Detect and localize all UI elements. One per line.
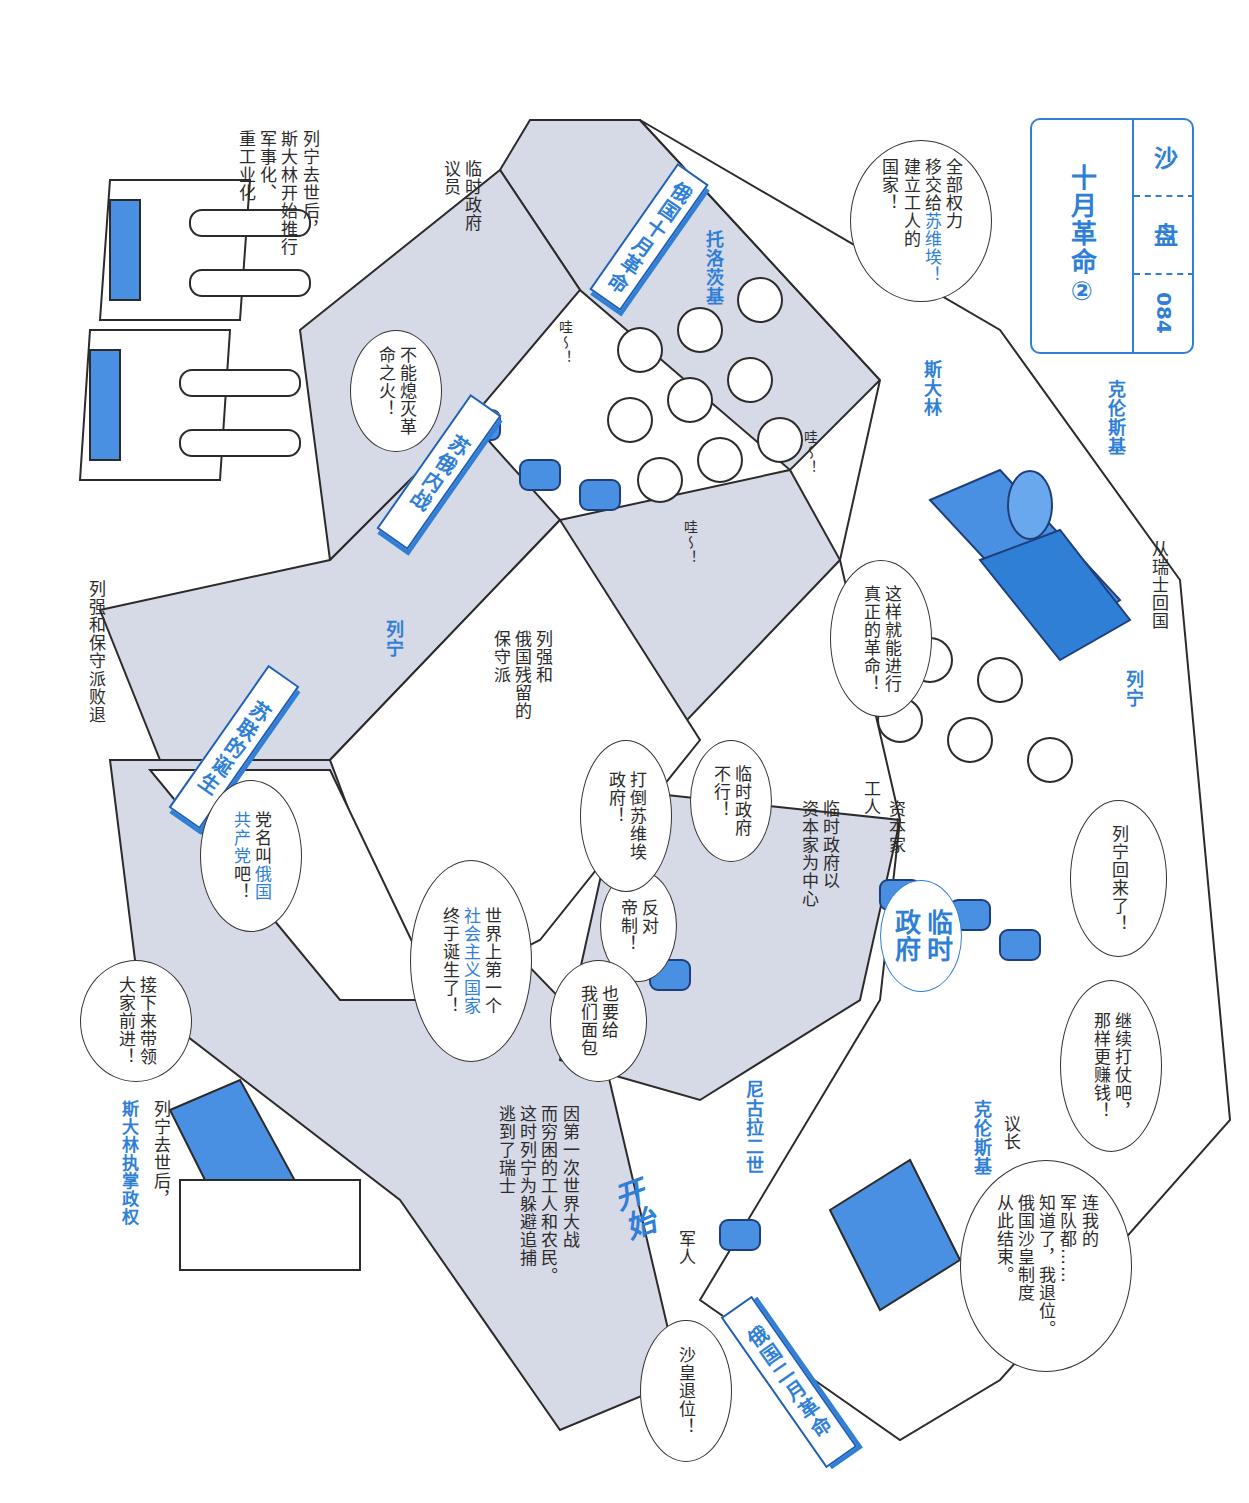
caption-powers-retreat: 列强和保守派败退 xyxy=(85,580,106,724)
label-stalin: 斯大林 xyxy=(918,360,944,417)
caption-chairman: 议长 xyxy=(1000,1115,1021,1151)
bubble-cant-extinguish: 不能熄灭革 命之火！ xyxy=(350,330,442,452)
chapter-title: 十月革命② xyxy=(1032,120,1132,352)
bubble-all-power-to-soviets: 全部权力 移交给苏维埃！ 建立工人的 国家！ xyxy=(850,140,992,302)
bubble-real-revolution: 这样就能进行 真正的革命！ xyxy=(830,560,932,717)
bubble-give-bread: 也要给 我们面包 xyxy=(550,960,647,1082)
provisional-government-sign: 临时 政府 xyxy=(880,880,962,992)
exclaim-wow-1: 哇～！ xyxy=(555,320,573,365)
bubble-lead-forward: 接下来带领 大家前进！ xyxy=(80,960,192,1082)
bubble-party-name: 党名叫俄国 共产党吧！ xyxy=(200,780,302,932)
exclaim-wow-2: 哇～！ xyxy=(800,430,818,475)
caption-provisional-center: 临时政府以 资本家为中心 xyxy=(798,800,841,908)
title-side-column: 沙 盘 084 xyxy=(1132,120,1194,352)
bubble-gov-no-good: 临时政府 不行！ xyxy=(690,740,772,862)
bubble-overthrow-soviet: 打倒苏维埃 政府！ xyxy=(580,740,672,892)
label-lenin-arrival: 列宁 xyxy=(1120,670,1146,708)
label-nicholas-ii: 尼古拉二世 xyxy=(740,1080,766,1180)
label-trotsky: 托洛茨基 xyxy=(700,230,726,306)
page-number: 084 xyxy=(1152,292,1176,334)
series-char-2: 盘 xyxy=(1147,223,1182,247)
label-kerensky-chair: 克伦斯基 xyxy=(968,1100,994,1176)
caption-war-start: 因第一次世界大战 而穷困的工人和农民。 这时列宁为躲避追捕 逃到了瑞士 xyxy=(495,1105,580,1285)
caption-worker: 工人 xyxy=(860,780,881,816)
label-lenin-civil-war: 列宁 xyxy=(380,620,406,658)
bubble-lenin-back: 列宁回来了！ xyxy=(1070,800,1167,957)
bubble-tsar-abdicate: 沙皇退位！ xyxy=(640,1320,732,1462)
label-kerensky-top: 克伦斯基 xyxy=(1080,380,1128,456)
caption-soldier: 军人 xyxy=(675,1230,696,1266)
chapter-title-box: 十月革命② 沙 盘 084 xyxy=(1030,118,1194,354)
illustration-page: 十月革命② 沙 盘 084 俄国十月革命 苏俄内战 苏联的诞生 俄国二月革命 开… xyxy=(0,0,1249,1503)
caption-powers-conservatives: 列强和 俄国残留的 保守派 xyxy=(490,630,554,720)
bubble-tsar-end: 连我的 军队都…… 知道了，我退位。 俄国沙皇制度 从此结束。 xyxy=(960,1160,1132,1372)
bubble-keep-fighting: 继续打仗吧， 那样更赚钱！ xyxy=(1060,980,1162,1152)
bubble-first-socialist-state: 世界上第一个 社会主义国家 终于诞生了！ xyxy=(410,860,532,1062)
series-char-1: 沙 xyxy=(1147,146,1182,170)
caption-provisional-member: 临时政府 议员 xyxy=(440,160,483,232)
caption-stalin-industrialization: 列宁去世后， 斯大林开始推行 军事化、 重工业化 xyxy=(235,130,320,256)
exclaim-wow-3: 哇～！ xyxy=(680,520,698,565)
caption-stalin-power-1: 列宁去世后， xyxy=(150,1100,171,1208)
caption-capitalist: 资本家 xyxy=(885,800,906,854)
caption-stalin-power-2: 斯大林执掌政权 xyxy=(118,1100,139,1226)
caption-from-switzerland: 从瑞士回国 xyxy=(1148,540,1169,630)
